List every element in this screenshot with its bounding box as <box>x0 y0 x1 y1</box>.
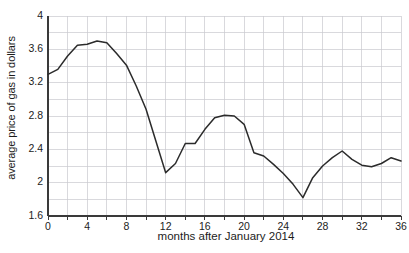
gas-price-line-chart: average price of gas in dollars 1.622.42… <box>0 0 409 253</box>
y-tick-label: 2.8 <box>28 109 43 121</box>
y-tick-label: 4 <box>37 9 43 21</box>
gridlines <box>48 16 401 216</box>
plot-area: 1.622.42.83.23.64 04812162024283236 <box>0 0 409 253</box>
x-axis-title: months after January 2014 <box>48 230 404 242</box>
y-tick-label: 1.6 <box>28 209 43 221</box>
y-axis-tick-labels: 1.622.42.83.23.64 <box>28 9 43 221</box>
y-tick-label: 3.6 <box>28 42 43 54</box>
y-tick-label: 2.4 <box>28 142 43 154</box>
y-tick-label: 2 <box>37 175 43 187</box>
y-tick-label: 3.2 <box>28 75 43 87</box>
